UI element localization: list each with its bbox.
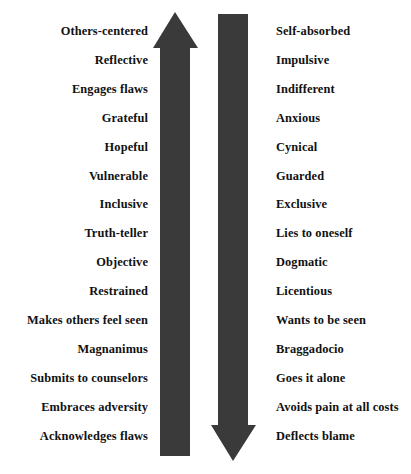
list-item: Guarded <box>276 169 324 183</box>
list-item: Hopeful <box>105 140 148 154</box>
list-item: Grateful <box>102 111 148 125</box>
list-item: Objective <box>96 255 148 269</box>
list-item: Dogmatic <box>276 255 328 269</box>
upward-arrow-icon <box>153 12 198 456</box>
list-item: Restrained <box>89 284 148 298</box>
list-item: Vulnerable <box>89 169 148 183</box>
list-item: Reflective <box>95 53 148 67</box>
list-item: Engages flaws <box>72 82 148 96</box>
list-item: Cynical <box>276 140 317 154</box>
list-item: Magnanimus <box>77 342 148 356</box>
list-item: Goes it alone <box>276 371 345 385</box>
list-item: Licentious <box>276 284 332 298</box>
list-item: Makes others feel seen <box>27 313 148 327</box>
list-item: Lies to oneself <box>276 226 353 240</box>
list-item: Others-centered <box>61 24 148 38</box>
list-item: Exclusive <box>276 197 327 211</box>
list-item: Impulsive <box>276 53 329 67</box>
list-item: Embraces adversity <box>41 400 148 414</box>
list-item: Submits to counselors <box>30 371 148 385</box>
list-item: Anxious <box>276 111 320 125</box>
downward-arrow-icon <box>211 14 256 461</box>
list-item: Inclusive <box>100 197 148 211</box>
list-item: Deflects blame <box>276 429 355 443</box>
list-item: Indifferent <box>276 82 335 96</box>
list-item: Self-absorbed <box>276 24 350 38</box>
list-item: Wants to be seen <box>276 313 366 327</box>
list-item: Avoids pain at all costs <box>276 400 399 414</box>
list-item: Truth-teller <box>84 226 148 240</box>
list-item: Braggadocio <box>276 342 344 356</box>
contrast-arrow-diagram: Others-centered Reflective Engages flaws… <box>0 0 411 474</box>
list-item: Acknowledges flaws <box>40 429 148 443</box>
